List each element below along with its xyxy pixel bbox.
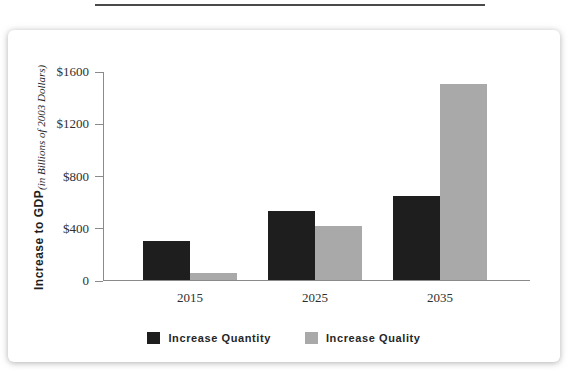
- bar-increase-quantity-2025: [268, 211, 315, 280]
- y-tick-mark: [95, 228, 103, 229]
- y-tick-label: $1600: [39, 64, 89, 80]
- bar-increase-quality-2035: [440, 84, 487, 280]
- legend-swatch-increase-quality: [305, 332, 318, 344]
- legend-item-increase-quality: Increase Quality: [305, 332, 421, 344]
- x-axis-line: [103, 280, 530, 281]
- x-category-label-2015: 2015: [155, 290, 225, 306]
- y-tick-mark: [95, 124, 103, 125]
- y-tick-label: $1200: [39, 116, 89, 132]
- bar-increase-quality-2015: [190, 273, 237, 280]
- legend: Increase QuantityIncrease Quality: [8, 332, 560, 344]
- x-category-label-2035: 2035: [405, 290, 475, 306]
- bar-increase-quantity-2035: [393, 196, 440, 280]
- legend-label: Increase Quantity: [168, 332, 271, 344]
- y-tick-mark: [95, 281, 103, 282]
- plot-area: 0$400$800$1200$1600201520252035: [103, 72, 530, 281]
- y-axis-line: [103, 72, 104, 281]
- x-category-label-2025: 2025: [280, 290, 350, 306]
- top-rule: [95, 4, 485, 6]
- legend-item-increase-quantity: Increase Quantity: [147, 332, 271, 344]
- y-tick-label: $400: [39, 221, 89, 237]
- bar-increase-quality-2025: [315, 226, 362, 280]
- bar-increase-quantity-2015: [143, 241, 190, 280]
- y-tick-label: $800: [39, 169, 89, 185]
- y-tick-mark: [95, 72, 103, 73]
- page: Increase to GDP (in Billions of 2003 Dol…: [0, 0, 578, 371]
- chart-card: Increase to GDP (in Billions of 2003 Dol…: [8, 30, 560, 362]
- legend-label: Increase Quality: [326, 332, 421, 344]
- legend-swatch-increase-quantity: [147, 332, 160, 344]
- y-tick-mark: [95, 176, 103, 177]
- y-tick-label: 0: [39, 273, 89, 289]
